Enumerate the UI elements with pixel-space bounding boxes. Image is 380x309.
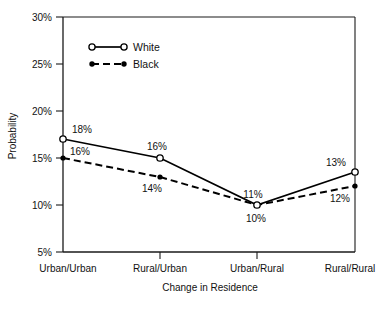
line-chart: 30% 25% 20% 15% 10% 5% Urban/Urban Rural… bbox=[0, 0, 380, 309]
point-label-black-2: 10% bbox=[246, 213, 266, 224]
legend-entry-white: White bbox=[89, 41, 160, 53]
plot-frame bbox=[63, 17, 355, 252]
point-label-black-3: 12% bbox=[330, 193, 350, 204]
point-labels-black: 16% 14% 10% 12% bbox=[70, 146, 350, 224]
y-tick-label-5: 5% bbox=[38, 247, 53, 258]
legend-marker-black-end bbox=[121, 61, 126, 66]
point-label-black-0: 16% bbox=[70, 146, 90, 157]
y-tick-label-20: 20% bbox=[32, 106, 52, 117]
point-label-black-1: 14% bbox=[142, 183, 162, 194]
y-tick-label-30: 30% bbox=[32, 12, 52, 23]
legend-label-black: Black bbox=[133, 58, 159, 70]
y-tick-label-10: 10% bbox=[32, 200, 52, 211]
point-label-white-1: 16% bbox=[147, 141, 167, 152]
x-axis-ticks bbox=[160, 252, 257, 259]
series-black-point-0 bbox=[60, 155, 65, 160]
point-label-white-0: 18% bbox=[72, 124, 92, 135]
series-white-point-0 bbox=[60, 136, 66, 142]
legend-label-white: White bbox=[133, 41, 160, 53]
series-white-point-2 bbox=[254, 202, 260, 208]
x-axis-title: Change in Residence bbox=[162, 282, 258, 293]
legend-marker-white-end bbox=[121, 44, 127, 50]
legend-entry-black: Black bbox=[89, 58, 159, 70]
series-white bbox=[60, 136, 358, 208]
series-white-point-1 bbox=[157, 155, 163, 161]
legend-marker-white-start bbox=[89, 44, 95, 50]
y-tick-label-25: 25% bbox=[32, 59, 52, 70]
point-label-white-2: 11% bbox=[243, 189, 262, 200]
chart-legend: White Black bbox=[89, 41, 160, 70]
series-white-point-3 bbox=[352, 169, 358, 175]
chart-container: 30% 25% 20% 15% 10% 5% Urban/Urban Rural… bbox=[0, 0, 380, 309]
series-black-point-1 bbox=[157, 174, 162, 179]
x-cat-label-2: Urban/Rural bbox=[230, 263, 284, 274]
x-cat-label-1: Rural/Urban bbox=[133, 263, 187, 274]
y-axis-title: Probability bbox=[7, 113, 18, 160]
point-label-white-3: 13% bbox=[326, 157, 346, 168]
x-cat-label-3: Rural/Rural bbox=[325, 263, 376, 274]
legend-marker-black-start bbox=[89, 61, 94, 66]
series-black-point-3 bbox=[352, 183, 357, 188]
y-tick-label-15: 15% bbox=[32, 153, 52, 164]
x-cat-label-0: Urban/Urban bbox=[39, 263, 96, 274]
y-axis-ticks bbox=[56, 17, 63, 252]
